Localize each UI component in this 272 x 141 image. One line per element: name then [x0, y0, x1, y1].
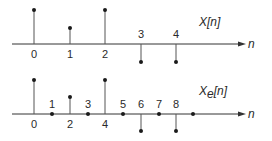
- bottom-plot: n Xe[n] 0 1 2 3 4 5 6 7 8: [12, 78, 255, 133]
- top-sample-3: [139, 60, 143, 64]
- bottom-sample-0: [32, 78, 36, 82]
- bottom-tick-label-0: 0: [31, 118, 37, 130]
- top-sample-4: [174, 60, 178, 64]
- top-tick-label-2: 2: [102, 48, 108, 60]
- top-tick-label-1: 1: [67, 48, 73, 60]
- bottom-tick-label-2: 2: [67, 118, 73, 130]
- bottom-sample-3: [86, 112, 90, 116]
- bottom-tick-label-4: 4: [102, 118, 108, 130]
- top-axis-arrow-icon: [238, 42, 246, 47]
- top-axis-label: n: [248, 37, 255, 51]
- bottom-tick-label-7: 7: [156, 98, 162, 110]
- bottom-tick-label-5: 5: [120, 98, 126, 110]
- top-sample-2: [103, 8, 107, 12]
- top-tick-label-0: 0: [31, 48, 37, 60]
- top-sample-1: [68, 26, 72, 30]
- bottom-sample-8: [174, 129, 178, 133]
- bottom-tick-label-3: 3: [85, 98, 91, 110]
- top-sample-0: [32, 8, 36, 12]
- bottom-sample-9: [191, 112, 195, 116]
- bottom-tick-label-6: 6: [138, 98, 144, 110]
- bottom-plot-title: Xe[n]: [198, 84, 228, 101]
- bottom-sample-4: [103, 78, 107, 82]
- bottom-tick-label-1: 1: [49, 98, 55, 110]
- bottom-axis-arrow-icon: [238, 112, 246, 117]
- bottom-sample-7: [157, 112, 161, 116]
- bottom-axis-label: n: [248, 107, 255, 121]
- top-tick-label-4: 4: [173, 28, 179, 40]
- stem-plot-diagram: n X[n] 0 1 2 3 4 n Xe[n] 0: [0, 0, 272, 141]
- bottom-sample-5: [121, 112, 125, 116]
- bottom-sample-1: [50, 112, 54, 116]
- bottom-sample-2: [68, 95, 72, 99]
- top-plot: n X[n] 0 1 2 3 4: [12, 8, 255, 64]
- top-tick-label-3: 3: [138, 28, 144, 40]
- top-plot-title: X[n]: [198, 15, 221, 29]
- bottom-sample-6: [139, 129, 143, 133]
- bottom-tick-label-8: 8: [173, 98, 179, 110]
